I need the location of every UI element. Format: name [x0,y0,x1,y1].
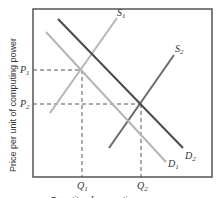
supply-demand-chart: Price per unit of computing power S1 S2 … [0,0,217,198]
p2-label: P2 [19,98,30,111]
p1-label: P1 [19,64,30,77]
y-axis-label: Price per unit of computing power [8,38,18,172]
x-axis-label: Quantity of computing power [50,195,165,198]
q1-label: Q1 [77,180,88,193]
q2-label: Q2 [137,180,148,193]
